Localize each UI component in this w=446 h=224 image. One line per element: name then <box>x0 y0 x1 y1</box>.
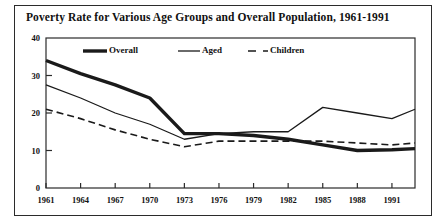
series-line-overall <box>46 61 415 151</box>
legend-label-children: Children <box>270 45 304 55</box>
series-line-aged <box>46 85 415 139</box>
legend-label-aged: Aged <box>202 45 222 55</box>
x-tick-label: 1985 <box>306 195 340 205</box>
x-tick-label: 1979 <box>237 195 271 205</box>
x-tick-label: 1982 <box>271 195 305 205</box>
y-tick-label: 20 <box>20 108 40 118</box>
y-tick-label: 40 <box>20 33 40 43</box>
x-tick-label: 1970 <box>133 195 167 205</box>
series-layer <box>46 61 415 151</box>
x-tick-label: 1967 <box>98 195 132 205</box>
chart-figure: Poverty Rate for Various Age Groups and … <box>0 0 446 224</box>
x-tick-label: 1976 <box>202 195 236 205</box>
x-tick-label: 1961 <box>29 195 63 205</box>
y-tick-label: 0 <box>20 183 40 193</box>
x-tick-label: 1964 <box>64 195 98 205</box>
x-tick-label: 1973 <box>167 195 201 205</box>
series-line-children <box>46 109 415 147</box>
legend-label-overall: Overall <box>109 45 138 55</box>
y-tick-label: 30 <box>20 71 40 81</box>
x-tick-label: 1988 <box>340 195 374 205</box>
y-tick-label: 10 <box>20 146 40 156</box>
x-tick-label: 1991 <box>375 195 409 205</box>
plot-area <box>0 0 446 224</box>
